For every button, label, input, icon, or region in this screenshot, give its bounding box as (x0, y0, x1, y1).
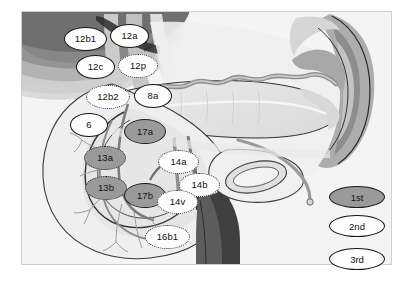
node-label-16b1[interactable]: 16b1 (145, 225, 190, 249)
node-label-12b1[interactable]: 12b1 (64, 27, 107, 51)
anatomical-figure: 12b1 12a 12c 12p 12b2 8a 6 17a 13a 14a 1… (0, 0, 399, 282)
node-label-17a[interactable]: 17a (124, 119, 166, 144)
node-label-13b[interactable]: 13b (85, 176, 127, 200)
node-label-12b2[interactable]: 12b2 (86, 85, 130, 109)
legend-item-2nd: 2nd (329, 215, 385, 237)
node-label-12p[interactable]: 12p (118, 54, 158, 78)
node-label-6[interactable]: 6 (70, 113, 108, 137)
vessel-end-cap (307, 199, 313, 205)
node-label-13a[interactable]: 13a (84, 146, 126, 170)
legend-item-1st: 1st (329, 186, 385, 208)
node-label-14a[interactable]: 14a (158, 150, 199, 174)
node-label-14v[interactable]: 14v (157, 190, 198, 214)
node-label-12a[interactable]: 12a (110, 24, 149, 48)
legend: 1st 2nd 3rd (329, 186, 391, 270)
node-label-12c[interactable]: 12c (76, 55, 115, 79)
legend-item-3rd: 3rd (329, 248, 385, 270)
node-label-8a[interactable]: 8a (134, 84, 172, 108)
